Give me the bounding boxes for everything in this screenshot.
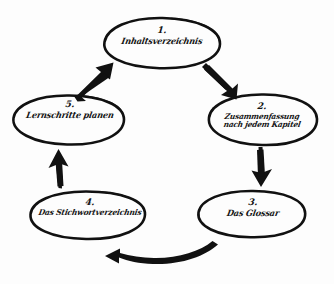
node-1-ellipse — [104, 18, 220, 68]
arrow-4-to-5 — [49, 149, 69, 189]
arrow-5-to-1 — [75, 63, 114, 102]
node-2-ellipse — [209, 94, 317, 145]
node-2-ellipse-overstroke — [209, 108, 213, 123]
node-5-ellipse-overstroke — [78, 96, 124, 118]
arrow-1-to-2 — [202, 63, 238, 100]
hand-drawn-cycle-diagram: 1. Inhaltsverzeichnis 2. Zusammenfassung… — [0, 0, 334, 284]
arrow-2-to-3 — [252, 147, 273, 187]
node-4-ellipse-overstroke — [95, 192, 145, 211]
diagram-sketch-canvas — [0, 0, 334, 284]
node-ellipses-group — [13, 18, 317, 239]
arrow-3-to-4 — [105, 241, 218, 264]
arrows-group — [49, 63, 273, 265]
node-5-ellipse — [13, 95, 124, 144]
node-4-ellipse — [30, 192, 145, 240]
node-3-ellipse — [198, 191, 305, 237]
